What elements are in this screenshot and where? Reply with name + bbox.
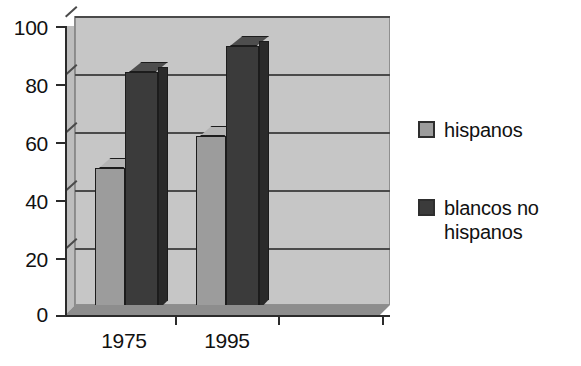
bar-front-face bbox=[125, 72, 158, 315]
bar-hispanos-1995 bbox=[196, 26, 226, 315]
bar-side-face bbox=[158, 67, 168, 310]
legend-item-blancos-no-hispanos: blancos no hispanos bbox=[418, 196, 578, 244]
y-tick-label-60: 60 bbox=[25, 133, 48, 154]
x-tick-label-1995: 1995 bbox=[204, 330, 250, 352]
plot-floor bbox=[65, 305, 390, 315]
y-tick-label-0: 0 bbox=[37, 304, 48, 325]
x-tick-mark-2 bbox=[278, 315, 280, 325]
x-tick-mark-3 bbox=[382, 315, 384, 325]
bar-blancos-no-hispanos-1975 bbox=[125, 26, 158, 315]
y-tick-label-20: 20 bbox=[25, 249, 48, 270]
legend-label-blancos-no-hispanos: blancos no hispanos bbox=[444, 196, 578, 244]
y-tick-mark-20 bbox=[56, 258, 65, 260]
x-axis-line bbox=[65, 315, 390, 317]
bar-hispanos-1975 bbox=[95, 26, 125, 315]
bar-front-face bbox=[95, 168, 125, 315]
x-tick-mark-1 bbox=[175, 315, 177, 325]
x-tick-label-1975: 1975 bbox=[101, 330, 147, 352]
bar-front-face bbox=[196, 136, 226, 315]
y-tick-mark-60 bbox=[56, 142, 65, 144]
y-tick-label-100: 100 bbox=[14, 17, 48, 38]
y-tick-mark-0 bbox=[56, 315, 65, 317]
gridline-100 bbox=[75, 16, 390, 18]
y-tick-mark-40 bbox=[56, 200, 65, 202]
y-axis-line bbox=[65, 26, 67, 315]
legend-swatch-icon-hispanos bbox=[418, 121, 435, 138]
plot-wall-edge bbox=[74, 16, 75, 315]
bar-chart: 100 80 60 40 20 0 1975 1995 hispanos bla… bbox=[0, 0, 581, 366]
legend-swatch-icon-blancos-no-hispanos bbox=[418, 199, 435, 216]
y-tick-label-80: 80 bbox=[25, 75, 48, 96]
bar-front-face bbox=[226, 46, 259, 315]
y-tick-mark-80 bbox=[56, 84, 65, 86]
legend-item-hispanos: hispanos bbox=[418, 118, 522, 142]
y-axis: 100 80 60 40 20 0 bbox=[0, 0, 56, 366]
y-tick-mark-100 bbox=[56, 26, 65, 28]
legend-label-hispanos: hispanos bbox=[444, 118, 522, 142]
bar-side-face bbox=[259, 41, 269, 310]
bar-blancos-no-hispanos-1995 bbox=[226, 26, 259, 315]
y-tick-label-40: 40 bbox=[25, 191, 48, 212]
